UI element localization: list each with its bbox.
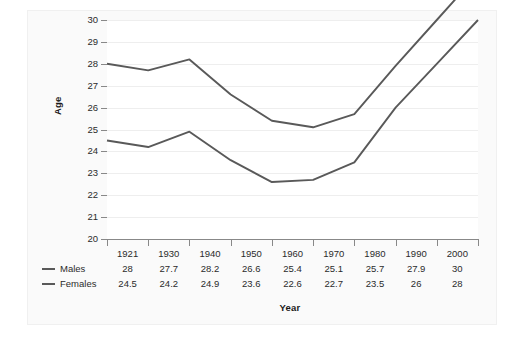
y-axis-tick	[101, 151, 107, 152]
x-axis-tick	[478, 239, 479, 246]
y-axis-tick-label: 24	[72, 146, 98, 156]
data-value-females: 22.7	[314, 276, 354, 291]
y-axis-tick-label: 28	[72, 59, 98, 69]
x-axis-category-label: 1970	[314, 246, 354, 261]
y-axis-tick	[101, 86, 107, 87]
data-value-table: 192119301940195019601970198019902000 Mal…	[37, 246, 487, 302]
y-axis-tick-label: 21	[72, 212, 98, 222]
x-axis-tick	[437, 239, 438, 246]
x-axis-category-label: 2000	[437, 246, 477, 261]
data-value-males: 28	[108, 261, 148, 276]
data-value-females: 22.6	[273, 276, 313, 291]
legend-line-swatch-icon	[42, 268, 55, 270]
series-line-females	[107, 20, 478, 182]
data-value-females: 23.6	[231, 276, 271, 291]
data-value-males: 30	[437, 261, 477, 276]
x-axis-tick	[231, 239, 232, 246]
data-value-males: 28.2	[190, 261, 230, 276]
data-value-males: 26.6	[231, 261, 271, 276]
y-axis-tick-label: 23	[72, 168, 98, 178]
legend-cell-empty	[37, 246, 107, 261]
y-axis-tick-label: 27	[72, 81, 98, 91]
x-axis-category-label: 1980	[355, 246, 395, 261]
y-axis-tick	[101, 195, 107, 196]
x-axis-tick	[396, 239, 397, 246]
x-axis-tick	[272, 239, 273, 246]
x-axis-tick	[313, 239, 314, 246]
y-axis-tick	[101, 42, 107, 43]
y-axis-tick	[101, 173, 107, 174]
legend-item-females[interactable]: Females	[37, 276, 107, 291]
legend-label-females: Females	[60, 276, 96, 291]
y-axis-tick-label: 20	[72, 234, 98, 244]
table-row: 192119301940195019601970198019902000	[37, 246, 487, 261]
x-axis-title: Year	[0, 302, 524, 313]
series-line-males	[107, 0, 478, 127]
x-axis-line	[107, 239, 479, 240]
x-axis-tick	[189, 239, 190, 246]
x-axis-tick	[107, 239, 108, 246]
data-value-females: 23.5	[355, 276, 395, 291]
legend-label-males: Males	[60, 261, 85, 276]
x-axis-category-label: 1990	[396, 246, 436, 261]
x-axis-category-label: 1960	[273, 246, 313, 261]
y-axis-tick	[101, 64, 107, 65]
y-axis-tick-label: 29	[72, 37, 98, 47]
data-value-females: 24.2	[149, 276, 189, 291]
data-value-females: 24.9	[190, 276, 230, 291]
table-row: Females 24.524.224.923.622.622.723.52628	[37, 276, 487, 291]
legend-item-males[interactable]: Males	[37, 261, 107, 276]
y-axis-tick	[101, 20, 107, 21]
series-lines	[107, 20, 478, 239]
data-value-females: 28	[437, 276, 477, 291]
data-value-females: 26	[396, 276, 436, 291]
data-value-males: 25.7	[355, 261, 395, 276]
y-axis-tick	[101, 217, 107, 218]
table-row: Males 2827.728.226.625.425.125.727.930	[37, 261, 487, 276]
plot-area	[107, 20, 478, 239]
y-axis-tick	[101, 239, 107, 240]
y-axis-tick	[101, 130, 107, 131]
data-value-males: 27.9	[396, 261, 436, 276]
legend-line-swatch-icon	[42, 283, 55, 285]
x-axis-tick	[148, 239, 149, 246]
y-axis-tick-label: 30	[72, 15, 98, 25]
x-axis-category-label: 1940	[190, 246, 230, 261]
y-axis-tick-label: 25	[72, 125, 98, 135]
y-axis-tick-label: 26	[72, 103, 98, 113]
y-axis-tick-label: 22	[72, 190, 98, 200]
data-value-males: 27.7	[149, 261, 189, 276]
x-axis-category-label: 1930	[149, 246, 189, 261]
data-value-males: 25.4	[273, 261, 313, 276]
y-axis-tick	[101, 108, 107, 109]
y-axis-title: Age	[52, 96, 63, 115]
data-value-females: 24.5	[108, 276, 148, 291]
x-axis-tick	[354, 239, 355, 246]
x-axis-category-label: 1921	[108, 246, 148, 261]
data-value-males: 25.1	[314, 261, 354, 276]
x-axis-category-label: 1950	[231, 246, 271, 261]
